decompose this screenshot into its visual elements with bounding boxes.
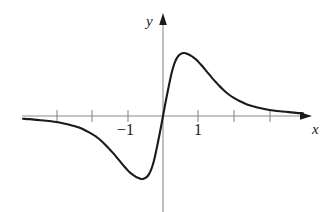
y-axis-label: y — [146, 14, 153, 29]
y-axis-arrowhead — [159, 13, 167, 25]
x-tick-label-one: 1 — [194, 122, 202, 138]
plot-canvas — [0, 0, 332, 212]
function-graph-figure: y x −1 1 — [0, 0, 332, 212]
x-axis-label: x — [312, 122, 319, 137]
x-tick-label-neg-one: −1 — [117, 122, 134, 138]
